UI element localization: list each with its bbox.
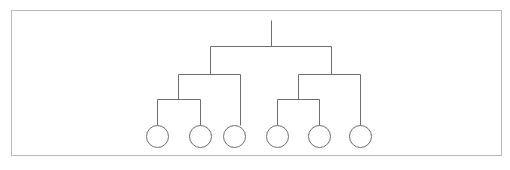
tree-edges-group <box>158 21 361 126</box>
tree-leaf-6-node[interactable] <box>350 126 372 148</box>
tree-leaf-4-node[interactable] <box>267 126 289 148</box>
tree-leaf-3-node[interactable] <box>224 126 246 148</box>
diagram-border <box>12 11 502 156</box>
tree-leaf-2-node[interactable] <box>190 126 212 148</box>
tree-diagram-svg <box>0 0 510 170</box>
tree-leaf-5-node[interactable] <box>309 126 331 148</box>
tree-diagram-canvas <box>0 0 510 170</box>
tree-leaf-1-node[interactable] <box>147 126 169 148</box>
tree-leaves-group <box>147 126 372 148</box>
